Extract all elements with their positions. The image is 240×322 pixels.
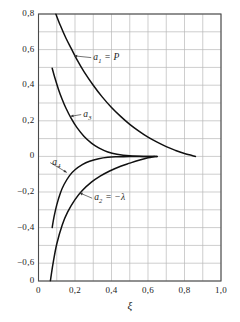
data-curves [50,14,195,281]
x-tick-label: 1,0 [207,285,235,295]
grid-lines [39,14,222,281]
y-tick-label: 0,4 [22,79,34,89]
y-tick-label: 0,8 [22,8,34,18]
y-tick-label: 0 [30,150,35,160]
y-tick-label: −0,6 [17,257,35,267]
x-tick-label: 0,2 [61,285,89,295]
x-tick-label: 0,6 [134,285,162,295]
chart-figure: 0,80,60,40,20−0,2−0,4−0,60 00,20,40,60,8… [0,0,240,322]
a1-annotation: a1 = P [93,52,119,64]
curve-a3 [52,68,157,156]
y-tick-label: 0,2 [22,115,34,125]
y-tick-label: 0 [30,275,35,285]
a2-annotation: a2 = −λ [94,192,125,204]
y-tick-label: 0,6 [22,44,34,54]
plot-canvas [0,0,240,322]
y-tick-label: −0,2 [17,186,35,196]
x-tick-label: 0 [25,285,53,295]
x-tick-label: 0,8 [171,285,199,295]
x-axis-label: ξ [120,299,140,311]
y-tick-label: −0,4 [17,222,35,232]
a4-annotation: a4 [52,157,60,169]
a3-annotation: a3 [83,109,91,121]
curve-a2 [50,156,154,281]
x-tick-label: 0,4 [98,285,126,295]
